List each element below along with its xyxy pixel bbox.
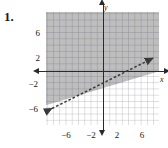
y-tick-label-minus-6: −6 xyxy=(24,105,38,114)
x-tick-label-2: 2 xyxy=(110,131,124,140)
arrow-down-icon xyxy=(99,130,105,136)
arrow-right-icon xyxy=(164,68,168,74)
arrow-left-icon xyxy=(33,68,39,74)
coordinate-plane xyxy=(46,12,159,125)
boundary-line xyxy=(46,12,159,125)
graph-figure: 1. y x 6 2 −2 −6 −6 −2 2 xyxy=(0,0,168,148)
y-tick-label-6: 6 xyxy=(26,29,40,38)
y-axis-label: y xyxy=(104,4,108,12)
boundary-line-segment xyxy=(52,58,153,108)
problem-number: 1. xyxy=(4,10,14,23)
x-tick-label-minus-6: −6 xyxy=(59,131,73,140)
y-tick-label-2: 2 xyxy=(26,54,40,63)
y-tick-label-minus-2: −2 xyxy=(24,80,38,89)
x-tick-label-6: 6 xyxy=(135,131,149,140)
x-tick-label-minus-2: −2 xyxy=(84,131,98,140)
x-axis-label: x xyxy=(160,76,164,84)
